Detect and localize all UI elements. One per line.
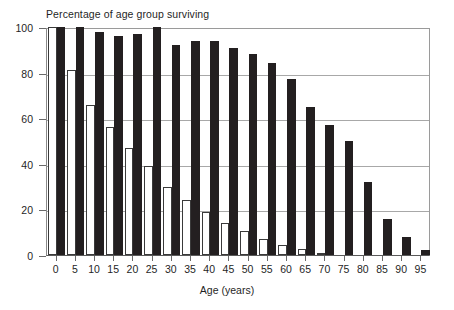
y-tick-mark [39, 28, 46, 29]
bar-dark [210, 41, 219, 255]
x-tick-mark [286, 256, 287, 261]
bar-light [86, 105, 95, 255]
x-tick-mark [344, 256, 345, 261]
x-tick-label: 40 [203, 263, 215, 275]
x-tick-label: 70 [319, 263, 331, 275]
x-tick-label: 85 [376, 263, 388, 275]
bar-group [355, 29, 372, 255]
bar-group [317, 29, 334, 255]
chart-container: Percentage of age group surviving 020406… [0, 0, 454, 310]
bar-light [182, 200, 191, 255]
x-tick-mark [382, 256, 383, 261]
y-axis: 020406080100 [0, 0, 46, 310]
x-tick-mark [113, 256, 114, 261]
bar-light [278, 245, 287, 255]
bar-group [144, 29, 161, 255]
bar-dark [325, 125, 334, 255]
x-tick-label: 45 [223, 263, 235, 275]
x-tick-mark [171, 256, 172, 261]
x-tick-label: 75 [338, 263, 350, 275]
x-tick-mark [420, 256, 421, 261]
y-tick-label: 100 [15, 22, 33, 34]
bar-light [298, 249, 307, 255]
y-tick-mark [39, 256, 46, 257]
bar-group [163, 29, 180, 255]
x-tick-label: 10 [88, 263, 100, 275]
x-tick-label: 95 [415, 263, 427, 275]
bar-group [106, 29, 123, 255]
bar-dark [191, 41, 200, 255]
bar-dark [76, 27, 85, 255]
bar-group [413, 29, 430, 255]
bar-dark [229, 48, 238, 255]
bar-dark [421, 250, 430, 255]
plot-area [46, 28, 430, 256]
bar-dark [57, 27, 66, 255]
bar-group [48, 29, 65, 255]
x-tick-mark [324, 256, 325, 261]
x-tick-mark [267, 256, 268, 261]
bar-dark [306, 107, 315, 255]
x-tick-mark [152, 256, 153, 261]
x-tick-mark [363, 256, 364, 261]
x-tick-label: 35 [184, 263, 196, 275]
bar-dark [287, 79, 296, 255]
x-tick-mark [190, 256, 191, 261]
x-tick-label: 5 [72, 263, 78, 275]
y-tick-mark [39, 119, 46, 120]
bar-light [144, 166, 153, 255]
x-tick-label: 80 [357, 263, 369, 275]
bar-group [221, 29, 238, 255]
x-tick-mark [75, 256, 76, 261]
bar-group [240, 29, 257, 255]
x-tick-mark [94, 256, 95, 261]
bar-group [86, 29, 103, 255]
bar-light [125, 148, 134, 255]
y-tick-label: 20 [21, 204, 33, 216]
y-tick-mark [39, 74, 46, 75]
bar-group [278, 29, 295, 255]
bar-dark [364, 182, 373, 255]
bar-light [259, 239, 268, 255]
bar-light [202, 212, 211, 255]
bar-dark [114, 36, 123, 255]
bar-dark [172, 45, 181, 255]
x-tick-label: 55 [261, 263, 273, 275]
bar-dark [95, 32, 104, 255]
x-tick-mark [228, 256, 229, 261]
x-tick-mark [248, 256, 249, 261]
bar-light [240, 231, 249, 255]
bar-light [317, 253, 326, 255]
x-tick-mark [401, 256, 402, 261]
x-tick-label: 60 [280, 263, 292, 275]
y-tick-label: 0 [27, 250, 33, 262]
x-tick-label: 30 [165, 263, 177, 275]
bar-group [394, 29, 411, 255]
x-axis-label: Age (years) [0, 284, 454, 296]
bar-dark [153, 27, 162, 255]
x-tick-mark [305, 256, 306, 261]
bar-group [298, 29, 315, 255]
chart-title: Percentage of age group surviving [46, 8, 209, 20]
y-tick-mark [39, 210, 46, 211]
bar-dark [402, 237, 411, 255]
x-tick-mark [132, 256, 133, 261]
y-tick-label: 40 [21, 159, 33, 171]
x-tick-label: 65 [299, 263, 311, 275]
bar-group [336, 29, 353, 255]
bar-light [106, 127, 115, 255]
bar-dark [383, 219, 392, 255]
bar-series-layer [47, 29, 429, 255]
y-tick-label: 80 [21, 68, 33, 80]
x-tick-mark [209, 256, 210, 261]
x-tick-label: 15 [107, 263, 119, 275]
bar-dark [249, 54, 258, 255]
bar-light [221, 223, 230, 255]
bar-dark [133, 34, 142, 255]
x-tick-label: 25 [146, 263, 158, 275]
bar-group [67, 29, 84, 255]
x-tick-mark [56, 256, 57, 261]
y-tick-label: 60 [21, 113, 33, 125]
bar-dark [345, 141, 354, 255]
bar-light [67, 70, 76, 255]
